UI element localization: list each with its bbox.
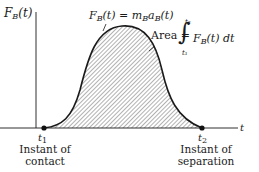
y-axis-label: FB(t) [4, 7, 32, 21]
separation-caption: Instant of separation [170, 143, 242, 167]
curve-label-leader [103, 24, 106, 31]
t-axis-label: t [240, 123, 244, 133]
contact-caption: Instant of contact [12, 143, 78, 167]
curve-equation-label: FB(t) = mBaB(t) [89, 10, 174, 23]
integral-lower-limit: t₁ [182, 49, 188, 57]
integral-upper-limit: t₂ [185, 18, 191, 26]
t1-point [41, 125, 46, 130]
t2-point [199, 125, 204, 130]
integrand: FB(t) dt [193, 33, 235, 46]
